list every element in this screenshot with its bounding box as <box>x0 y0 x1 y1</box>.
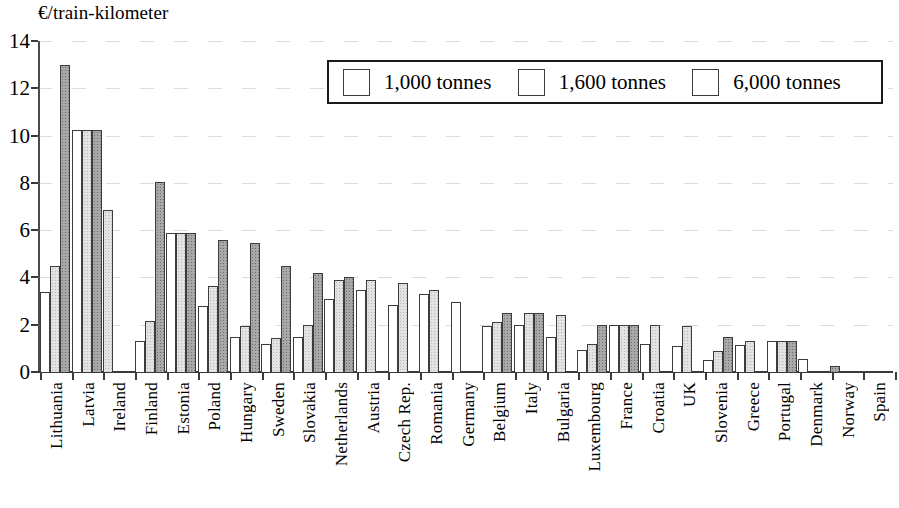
bar <box>798 359 808 372</box>
x-tick-label: France <box>618 382 635 429</box>
bar <box>703 360 713 372</box>
bar <box>524 313 534 372</box>
y-tick-label: 2 <box>0 314 30 335</box>
y-tick-mark <box>31 182 38 184</box>
bar <box>492 322 502 372</box>
bar <box>208 286 218 372</box>
bar <box>293 337 303 372</box>
x-tick-mark <box>135 372 137 380</box>
bar <box>313 273 323 372</box>
x-tick-label: Belgium <box>491 382 508 442</box>
x-tick-label: Romania <box>428 382 445 445</box>
x-tick-label: Austria <box>365 382 382 433</box>
bar <box>240 326 250 372</box>
bar-group <box>166 41 198 372</box>
x-tick-mark <box>230 372 232 380</box>
x-tick-label: Ireland <box>111 382 128 432</box>
bar <box>713 351 723 372</box>
bar <box>72 130 82 372</box>
bar <box>650 325 660 372</box>
bar-group <box>103 41 135 372</box>
legend-swatch-dark-gray-icon <box>692 69 719 96</box>
bar <box>534 313 544 372</box>
bar <box>166 233 176 372</box>
bar <box>767 341 777 372</box>
legend: 1,000 tonnes 1,600 tonnes 6,000 tonnes <box>327 60 883 104</box>
x-tick-mark <box>198 372 200 380</box>
bar <box>176 233 186 372</box>
bar <box>261 344 271 372</box>
legend-item-1600: 1,600 tonnes <box>518 69 693 96</box>
bar <box>640 344 650 372</box>
x-tick-mark <box>705 372 707 380</box>
bar-chart: €/train-kilometer 02468101214 LithuaniaL… <box>0 0 899 508</box>
legend-swatch-white-icon <box>343 69 370 96</box>
x-tick-mark <box>262 372 264 380</box>
x-tick-mark <box>40 372 42 380</box>
bar <box>60 65 70 372</box>
bar <box>198 306 208 372</box>
y-tick-label: 6 <box>0 220 30 241</box>
y-axis-title: €/train-kilometer <box>38 2 168 24</box>
x-axis-ticks <box>40 372 895 380</box>
x-tick-mark <box>325 372 327 380</box>
bar <box>40 292 50 372</box>
bar <box>514 325 524 372</box>
bar <box>366 280 376 372</box>
x-tick-mark <box>388 372 390 380</box>
x-tick-label: Norway <box>840 382 857 438</box>
x-axis-labels: LithuaniaLatviaIrelandFinlandEstoniaPola… <box>40 382 895 508</box>
x-tick-mark <box>167 372 169 380</box>
bar-group <box>261 41 293 372</box>
bar <box>587 344 597 372</box>
x-tick-label: UK <box>681 382 698 407</box>
x-tick-label: Poland <box>206 382 223 430</box>
x-tick-mark <box>832 372 834 380</box>
bar-group <box>230 41 262 372</box>
y-tick-label: 4 <box>0 267 30 288</box>
x-tick-label: Denmark <box>808 382 825 447</box>
x-tick-mark <box>768 372 770 380</box>
x-tick-mark <box>293 372 295 380</box>
bar <box>250 243 260 372</box>
x-tick-mark <box>800 372 802 380</box>
bar <box>597 325 607 372</box>
x-tick-label: Germany <box>460 382 477 447</box>
bar <box>609 325 619 372</box>
x-tick-mark <box>610 372 612 380</box>
bar <box>82 130 92 372</box>
legend-item-6000: 6,000 tonnes <box>692 69 867 96</box>
x-tick-label: Lithuania <box>48 382 65 449</box>
x-tick-label: Czech Rep. <box>396 382 413 462</box>
bar <box>271 338 281 372</box>
x-tick-mark <box>642 372 644 380</box>
y-tick-label: 14 <box>0 31 30 52</box>
bar <box>303 325 313 372</box>
x-tick-label: Spain <box>871 382 888 422</box>
bar <box>672 346 682 372</box>
bar <box>155 182 165 372</box>
legend-label-1600: 1,600 tonnes <box>559 70 666 95</box>
bar <box>281 266 291 372</box>
x-tick-mark <box>103 372 105 380</box>
y-tick-mark <box>31 371 38 373</box>
y-tick-mark <box>31 40 38 42</box>
x-tick-label: Sweden <box>270 382 287 437</box>
y-tick-label: 8 <box>0 172 30 193</box>
y-tick-label: 12 <box>0 78 30 99</box>
x-tick-label: Italy <box>523 382 540 414</box>
bar <box>344 277 354 372</box>
bar <box>334 280 344 372</box>
bar <box>218 240 228 372</box>
x-tick-mark <box>578 372 580 380</box>
bar <box>735 345 745 372</box>
x-tick-label: Luxembourg <box>586 382 603 472</box>
legend-swatch-light-gray-icon <box>518 69 545 96</box>
bar-group <box>198 41 230 372</box>
bar-group <box>40 41 72 372</box>
x-tick-label: Hungary <box>238 382 255 443</box>
bar <box>103 210 113 372</box>
x-tick-label: Croatia <box>650 382 667 433</box>
x-tick-mark <box>863 372 865 380</box>
bar <box>556 315 566 372</box>
